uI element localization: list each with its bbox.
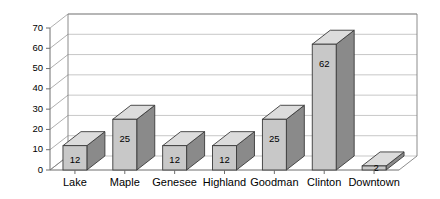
x-axis-category-label: Lake [63,176,87,188]
x-axis-category-label: Genesee [152,176,197,188]
x-axis-category-label: Maple [110,176,140,188]
bar-chart: 01020304050607012Lake25Maple12Genesee12H… [0,0,440,199]
y-axis-label: 40 [32,82,43,93]
bar-value-label: 25 [269,133,280,144]
bar-front-face [262,119,286,170]
bar-value-label: 62 [319,58,330,69]
bar-front-face [113,119,137,170]
gridline-depth [50,14,68,28]
bar-value-label: 12 [219,154,230,165]
x-axis-category-label: Downtown [348,176,399,188]
y-axis-label: 60 [32,42,43,53]
x-axis-category-label: Highland [203,176,246,188]
y-axis-label: 20 [32,123,43,134]
bar-group [312,30,354,170]
gridline-depth [50,95,68,109]
gridline-depth [50,115,68,129]
y-axis-label: 30 [32,103,43,114]
gridline-depth [50,55,68,69]
x-axis-category-label: Goodman [250,176,298,188]
x-axis-category-label: Clinton [307,176,341,188]
bar-side-face [336,30,354,170]
y-axis-label: 10 [32,143,43,154]
bar-value-label: 25 [119,133,130,144]
y-axis-label: 70 [32,22,43,33]
gridline-depth [50,75,68,89]
gridline-depth [50,34,68,48]
y-axis-label: 0 [38,164,43,175]
bar-value-label: 12 [169,154,180,165]
y-axis-label: 50 [32,62,43,73]
chart-canvas: 01020304050607012Lake25Maple12Genesee12H… [0,0,440,199]
bar-value-label: 12 [70,154,81,165]
